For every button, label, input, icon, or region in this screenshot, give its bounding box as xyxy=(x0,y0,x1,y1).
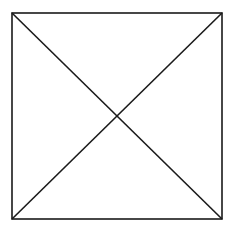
square-diagram xyxy=(0,0,237,226)
diagram-canvas xyxy=(0,0,237,226)
